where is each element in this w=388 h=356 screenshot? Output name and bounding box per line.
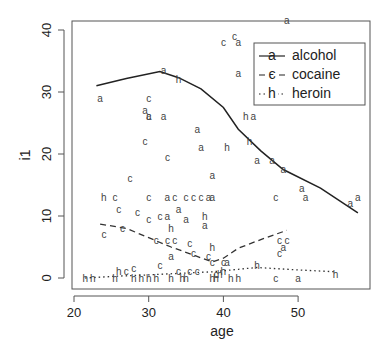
cocaine-point: c — [184, 192, 189, 203]
alcohol-point: a — [254, 155, 260, 166]
alcohol-point: a — [206, 192, 212, 203]
alcohol-point: a — [198, 142, 204, 153]
heroin-point: h — [138, 273, 144, 284]
x-axis: 20304050 — [67, 296, 306, 320]
legend-symbol-cocaine: є — [268, 66, 275, 82]
cocaine-point: c — [101, 229, 106, 240]
cocaine-point: c — [172, 235, 177, 246]
x-tick-label: 30 — [141, 305, 155, 320]
alcohol-point: a — [165, 211, 171, 222]
cocaine-point: c — [232, 31, 237, 42]
alcohol-point: a — [165, 192, 171, 203]
heroin-point: h — [168, 223, 174, 234]
cocaine-point: c — [157, 211, 162, 222]
legend-symbol-heroin: h — [268, 85, 276, 101]
alcohol-point: a — [295, 273, 301, 284]
cocaine-point: c — [146, 214, 151, 225]
legend: aalcoholєcocainehheroin — [254, 43, 365, 105]
cocaine-point: c — [142, 136, 147, 147]
heroin-point: h — [202, 211, 208, 222]
cocaine-point: c — [113, 192, 118, 203]
heroin-point: h — [247, 136, 253, 147]
y-axis-title: i1 — [17, 149, 33, 160]
alcohol-point: a — [280, 164, 286, 175]
heroin-point: h — [236, 273, 242, 284]
cocaine-point: c — [124, 266, 129, 277]
heroin-point: h — [228, 273, 234, 284]
alcohol-point: a — [209, 170, 215, 181]
heroin-point: h — [116, 266, 122, 277]
cocaine-point: c — [128, 173, 133, 184]
cocaine-point: c — [120, 223, 125, 234]
cocaine-point: c — [135, 207, 140, 218]
alcohol-point: a — [269, 155, 275, 166]
cocaine-point: c — [157, 260, 162, 271]
cocaine-point: c — [284, 235, 289, 246]
cocaine-point: c — [116, 204, 121, 215]
legend-label-alcohol: alcohol — [292, 47, 336, 63]
cocaine-point: c — [277, 248, 282, 259]
y-tick-label: 10 — [39, 209, 54, 223]
y-tick-label: 0 — [39, 274, 54, 281]
y-tick-label: 40 — [39, 23, 54, 37]
cocaine-point: c — [195, 266, 200, 277]
cocaine-point: c — [165, 235, 170, 246]
cocaine-point: c — [273, 192, 278, 203]
cocaine-point: c — [191, 192, 196, 203]
heroin-point: h — [146, 273, 152, 284]
alcohol-point: a — [303, 192, 309, 203]
alcohol-point: a — [161, 65, 167, 76]
x-tick-label: 50 — [291, 305, 305, 320]
heroin-point: h — [183, 273, 189, 284]
alcohol-point: a — [97, 93, 103, 104]
legend-label-heroin: heroin — [292, 85, 331, 101]
heroin-point: h — [153, 273, 159, 284]
y-axis: 010203040 — [39, 23, 64, 282]
alcohol-point: a — [161, 111, 167, 122]
alcohol-point: a — [183, 214, 189, 225]
cocaine-point: c — [146, 93, 151, 104]
alcohol-point: a — [355, 192, 361, 203]
cocaine-point: c — [210, 257, 215, 268]
alcohol-point: a — [250, 111, 256, 122]
scatter-chart: 20304050 010203040 age i1 aaaaaaaaaaaaaa… — [0, 0, 388, 356]
legend-symbol-alcohol: a — [268, 47, 276, 63]
heroin-point: h — [82, 273, 88, 284]
cocaine-point: c — [277, 235, 282, 246]
legend-label-cocaine: cocaine — [292, 66, 340, 82]
x-axis-title: age — [210, 323, 234, 339]
alcohol-point: a — [176, 204, 182, 215]
cocaine-point: c — [198, 192, 203, 203]
cocaine-point: c — [172, 192, 177, 203]
heroin-point: h — [333, 269, 339, 280]
heroin-point: h — [101, 192, 107, 203]
alcohol-point: a — [168, 251, 174, 262]
cocaine-point: c — [273, 273, 278, 284]
heroin-point: h — [243, 111, 249, 122]
cocaine-point: c — [165, 152, 170, 163]
alcohol-point: a — [236, 68, 242, 79]
heroin-point: h — [131, 273, 137, 284]
heroin-point: h — [254, 260, 260, 271]
y-tick-label: 20 — [39, 147, 54, 161]
heroin-point: h — [221, 266, 227, 277]
heroin-point: h — [224, 142, 230, 153]
x-tick-label: 20 — [67, 305, 81, 320]
cocaine-point: c — [191, 248, 196, 259]
heroin-point: h — [90, 273, 96, 284]
y-tick-label: 30 — [39, 85, 54, 99]
heroin-point: h — [209, 242, 215, 253]
heroin-point: h — [176, 74, 182, 85]
alcohol-point: a — [194, 124, 200, 135]
x-tick-label: 40 — [216, 305, 230, 320]
alcohol-point: a — [348, 198, 354, 209]
cocaine-point: c — [221, 37, 226, 48]
alcohol-point: a — [284, 15, 290, 26]
cocaine-point: c — [146, 192, 151, 203]
cocaine-point: c — [146, 111, 151, 122]
cocaine-point: c — [154, 235, 159, 246]
heroin-point: h — [168, 273, 174, 284]
